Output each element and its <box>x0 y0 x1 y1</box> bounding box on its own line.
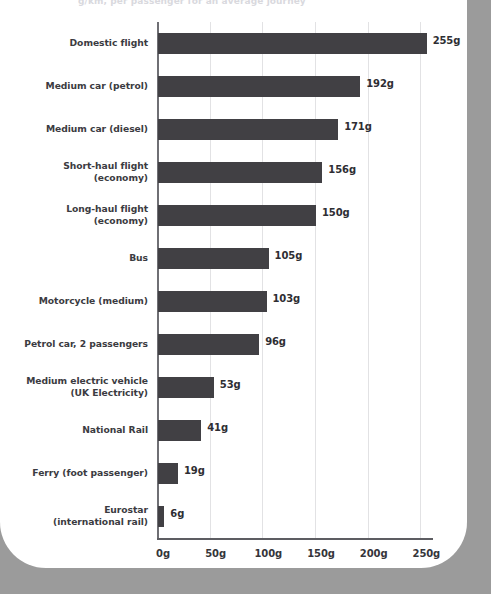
x-tick-label: 200g <box>360 548 388 559</box>
x-tick-label: 150g <box>307 548 335 559</box>
bar-row: 96g <box>157 323 433 366</box>
category-label-line: Medium car (diesel) <box>0 123 148 136</box>
bar-row: 103g <box>157 280 433 323</box>
category-label-line: (economy) <box>0 172 148 185</box>
bar[interactable] <box>158 248 269 269</box>
bar-value-label: 192g <box>366 78 394 89</box>
category-label: Eurostar(international rail) <box>0 504 148 529</box>
x-tick-label: 100g <box>255 548 283 559</box>
bar[interactable] <box>158 33 427 54</box>
bar[interactable] <box>158 162 322 183</box>
bar-row: 255g <box>157 22 433 65</box>
bar-row: 171g <box>157 108 433 151</box>
chart-card: g/km, per passenger for an average journ… <box>0 0 467 568</box>
x-tick-label: 0g <box>156 548 170 559</box>
bar-value-label: 53g <box>220 379 241 390</box>
category-label-line: (international rail) <box>0 516 148 529</box>
category-label-line: Motorcycle (medium) <box>0 295 148 308</box>
category-label: Medium car (petrol) <box>0 80 148 93</box>
category-label: Domestic flight <box>0 37 148 50</box>
bar-value-label: 41g <box>207 422 228 433</box>
bar[interactable] <box>158 506 164 527</box>
bar-row: 105g <box>157 237 433 280</box>
category-label: Petrol car, 2 passengers <box>0 338 148 351</box>
bar[interactable] <box>158 291 267 312</box>
category-label-line: National Rail <box>0 424 148 437</box>
category-label: Medium electric vehicle(UK Electricity) <box>0 375 148 400</box>
bar[interactable] <box>158 205 316 226</box>
bar-value-label: 105g <box>275 250 303 261</box>
bar[interactable] <box>158 420 201 441</box>
bar-value-label: 6g <box>170 508 184 519</box>
plot-area: 255g192g171g156g150g105g103g96g53g41g19g… <box>157 22 433 538</box>
category-label-line: (UK Electricity) <box>0 387 148 400</box>
x-tick-label: 50g <box>205 548 226 559</box>
bar-row: 53g <box>157 366 433 409</box>
category-label: National Rail <box>0 424 148 437</box>
category-label: Medium car (diesel) <box>0 123 148 136</box>
bar-value-label: 103g <box>273 293 301 304</box>
x-axis-line <box>157 538 433 540</box>
bar[interactable] <box>158 119 338 140</box>
category-label: Short-haul flight(economy) <box>0 160 148 185</box>
category-label-line: Medium electric vehicle <box>0 375 148 388</box>
bar-value-label: 19g <box>184 465 205 476</box>
category-label: Long-haul flight(economy) <box>0 203 148 228</box>
bar-row: 150g <box>157 194 433 237</box>
category-label-line: Petrol car, 2 passengers <box>0 338 148 351</box>
bar[interactable] <box>158 463 178 484</box>
bar-row: 19g <box>157 452 433 495</box>
category-label: Bus <box>0 252 148 265</box>
bar-value-label: 255g <box>433 35 461 46</box>
bar-row: 41g <box>157 409 433 452</box>
category-label: Motorcycle (medium) <box>0 295 148 308</box>
bar-value-label: 156g <box>328 164 356 175</box>
category-label-line: Long-haul flight <box>0 203 148 216</box>
bar-row: 6g <box>157 495 433 538</box>
bar[interactable] <box>158 76 360 97</box>
bar-value-label: 171g <box>344 121 372 132</box>
category-label-line: Eurostar <box>0 504 148 517</box>
bar-row: 192g <box>157 65 433 108</box>
bar-value-label: 96g <box>265 336 286 347</box>
category-label: Ferry (foot passenger) <box>0 467 148 480</box>
category-label-line: Bus <box>0 252 148 265</box>
bar[interactable] <box>158 334 259 355</box>
category-label-line: (economy) <box>0 215 148 228</box>
bar[interactable] <box>158 377 214 398</box>
category-label-line: Domestic flight <box>0 37 148 50</box>
category-label-line: Short-haul flight <box>0 160 148 173</box>
bar-row: 156g <box>157 151 433 194</box>
bar-value-label: 150g <box>322 207 350 218</box>
x-tick-label: 250g <box>413 548 441 559</box>
bar-chart: 255g192g171g156g150g105g103g96g53g41g19g… <box>0 0 467 568</box>
category-label-line: Medium car (petrol) <box>0 80 148 93</box>
category-label-line: Ferry (foot passenger) <box>0 467 148 480</box>
